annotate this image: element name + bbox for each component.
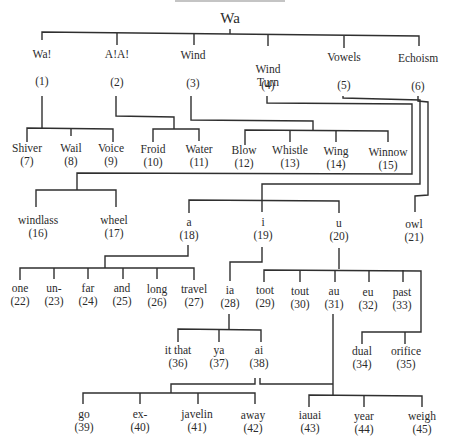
node-label: ai	[255, 344, 263, 356]
node-5: Vowels	[327, 51, 361, 64]
node-label: u	[336, 217, 342, 229]
node-29: toot (29)	[255, 284, 274, 310]
node-label: Wa!	[33, 48, 52, 60]
node-label: and	[114, 282, 131, 294]
node-1-num: (1)	[35, 75, 48, 88]
node-3: Wind	[180, 49, 205, 62]
node-label: Whistle	[272, 144, 308, 156]
node-number: (31)	[324, 298, 343, 311]
node-number: (9)	[98, 155, 124, 168]
node-32: eu (32)	[358, 286, 377, 312]
node-30: tout (30)	[290, 285, 309, 311]
node-13: Whistle (13)	[272, 144, 308, 170]
node-label: ia	[226, 284, 234, 296]
node-number: (20)	[329, 230, 348, 243]
node-label: a	[186, 216, 191, 228]
node-number: (25)	[112, 295, 131, 308]
node-33: past (33)	[392, 286, 411, 312]
node-number: (45)	[408, 423, 436, 436]
node-number: (32)	[358, 299, 377, 312]
node-26: long (26)	[147, 283, 167, 309]
node-number: (27)	[181, 296, 207, 309]
node-16: windlass (16)	[18, 214, 58, 240]
node-25: and (25)	[112, 282, 131, 308]
node-number: (8)	[60, 155, 81, 168]
node-number: (3)	[186, 77, 199, 89]
node-number: (36)	[165, 357, 192, 370]
node-18: a (18)	[179, 216, 198, 242]
node-6-num: (6)	[411, 80, 424, 93]
node-label: toot	[256, 284, 274, 296]
node-number: (34)	[352, 358, 372, 371]
node-number: (21)	[404, 231, 423, 244]
node-label: Wail	[60, 142, 81, 154]
tree-diagram: Wa Wa! (1) A!A! (2) Wind (3) Wind Turn (…	[0, 0, 454, 447]
node-1: Wa!	[33, 48, 52, 61]
node-number: (29)	[255, 297, 274, 310]
node-label: travel	[181, 283, 207, 295]
node-number: (7)	[12, 155, 42, 168]
node-17: wheel (17)	[100, 214, 127, 240]
node-label: javelin	[181, 408, 212, 420]
node-number: (15)	[368, 159, 407, 172]
node-number: (42)	[241, 422, 265, 435]
node-label: long	[147, 283, 167, 295]
node-label: weigh	[408, 410, 436, 422]
node-number: (18)	[179, 229, 198, 242]
node-number: (35)	[391, 358, 421, 371]
node-number: (30)	[290, 298, 309, 311]
node-label: tout	[291, 285, 309, 297]
node-label: ya	[214, 344, 225, 356]
node-label: Winnow	[368, 146, 407, 158]
node-number: (6)	[411, 80, 424, 92]
node-4-num: (4)	[261, 79, 274, 92]
node-number: (16)	[18, 227, 58, 240]
node-number: (5)	[337, 79, 350, 91]
node-label: owl	[405, 218, 422, 230]
node-number: (44)	[354, 423, 374, 436]
node-number: (10)	[141, 156, 166, 169]
node-number: (41)	[181, 421, 212, 434]
node-label: A!A!	[105, 48, 129, 60]
node-number: (11)	[185, 156, 212, 169]
node-number: (39)	[74, 421, 93, 434]
node-label: Vowels	[327, 51, 361, 63]
node-42: away (42)	[241, 409, 265, 435]
node-label: away	[241, 409, 265, 421]
node-number: (37)	[209, 357, 228, 370]
node-43: iauai (43)	[299, 409, 321, 435]
node-number: (17)	[100, 227, 127, 240]
node-label: iauai	[299, 409, 321, 421]
node-45: weigh (45)	[408, 410, 436, 436]
connector-lines	[0, 0, 454, 447]
node-label: Blow	[232, 144, 257, 156]
node-label: windlass	[18, 214, 58, 226]
node-label: year	[354, 410, 374, 422]
node-label: Echoism	[398, 52, 438, 64]
node-37: ya (37)	[209, 344, 228, 370]
node-label: it that	[165, 344, 192, 356]
node-41: javelin (41)	[181, 408, 212, 434]
node-label: Wing	[323, 145, 348, 157]
node-35: orifice (35)	[391, 345, 421, 371]
node-8: Wail (8)	[60, 142, 81, 168]
node-number: (43)	[299, 422, 321, 435]
node-15: Winnow (15)	[368, 146, 407, 172]
node-label: un-	[46, 282, 61, 294]
node-20: u (20)	[329, 217, 348, 243]
node-12: Blow (12)	[232, 144, 257, 170]
node-label: past	[393, 286, 412, 298]
node-11: Water (11)	[185, 143, 212, 169]
node-label: Shiver	[12, 142, 42, 154]
node-number: (1)	[35, 75, 48, 87]
node-5-num: (5)	[337, 79, 350, 92]
root-node-wa: Wa	[220, 12, 240, 25]
node-number: (38)	[249, 357, 268, 370]
node-number: (23)	[44, 295, 63, 308]
node-19: i (19)	[253, 216, 272, 242]
node-2-num: (2)	[110, 76, 123, 89]
node-10: Froid (10)	[141, 143, 166, 169]
node-number: (14)	[323, 158, 348, 171]
node-label: Water	[185, 143, 212, 155]
node-label: ex-	[133, 408, 148, 420]
